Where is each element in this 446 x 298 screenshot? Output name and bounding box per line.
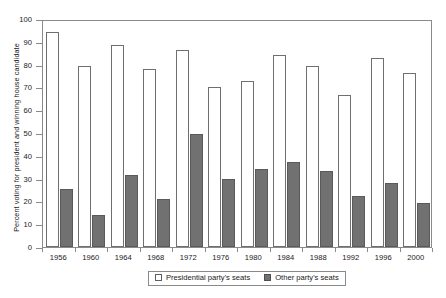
bar-1972-other — [190, 134, 203, 247]
bar-1964-other — [125, 175, 138, 247]
legend-swatch-presidential-icon — [155, 274, 162, 281]
bars-layer — [43, 21, 431, 247]
x-axis-tick — [335, 248, 336, 252]
legend-label-presidential: Presidential party's seats — [166, 274, 250, 282]
y-axis-tick-label: 10 — [0, 221, 32, 229]
bar-2000-other — [417, 203, 430, 247]
x-axis-tick — [205, 248, 206, 252]
bar-1980-presidential — [241, 81, 254, 247]
x-axis-tick — [367, 248, 368, 252]
x-axis-tick — [140, 248, 141, 252]
y-axis-tick-label: 20 — [0, 198, 32, 206]
bar-2000-presidential — [403, 73, 416, 247]
x-axis-tick — [270, 248, 271, 252]
bar-1992-presidential — [338, 95, 351, 247]
bar-1988-other — [320, 171, 333, 247]
bar-1984-presidential — [273, 55, 286, 247]
y-axis-tick-label: 60 — [0, 107, 32, 115]
x-axis-tick — [302, 248, 303, 252]
x-axis-tick — [75, 248, 76, 252]
bar-1992-other — [352, 196, 365, 247]
bar-1976-other — [222, 179, 235, 247]
y-axis-tick-label: 30 — [0, 176, 32, 184]
legend-label-other: Other party's seats — [275, 274, 339, 282]
y-axis-tick-label: 100 — [0, 16, 32, 24]
bar-1988-presidential — [306, 66, 319, 247]
y-axis-tick-label: 50 — [0, 130, 32, 138]
y-axis-tick-label: 0 — [0, 244, 32, 252]
bar-1956-other — [60, 189, 73, 247]
y-axis-tick-label: 70 — [0, 84, 32, 92]
x-axis-tick-label: 2000 — [396, 254, 436, 262]
bar-1968-other — [157, 199, 170, 247]
bar-1996-other — [385, 183, 398, 247]
bar-1980-other — [255, 169, 268, 247]
y-axis-tick-label: 40 — [0, 153, 32, 161]
bar-1996-presidential — [371, 58, 384, 247]
bar-1972-presidential — [176, 50, 189, 247]
bar-1976-presidential — [208, 87, 221, 247]
legend-swatch-other-icon — [264, 274, 271, 281]
legend-item-other: Other party's seats — [264, 274, 339, 282]
y-axis-tick-label: 90 — [0, 39, 32, 47]
legend-item-presidential: Presidential party's seats — [155, 274, 250, 282]
bar-1960-other — [92, 215, 105, 247]
plot-area — [42, 20, 432, 248]
bar-1984-other — [287, 162, 300, 248]
bar-1956-presidential — [46, 32, 59, 247]
bar-chart-figure: Percent voting for president and winning… — [0, 0, 446, 298]
bar-1960-presidential — [78, 66, 91, 247]
x-axis-tick — [432, 248, 433, 252]
x-axis-tick — [172, 248, 173, 252]
x-axis-tick — [400, 248, 401, 252]
y-axis-tick-label: 80 — [0, 62, 32, 70]
chart-legend: Presidential party's seats Other party's… — [148, 271, 346, 286]
bar-1964-presidential — [111, 45, 124, 247]
x-axis-tick — [42, 248, 43, 252]
x-axis-tick — [237, 248, 238, 252]
bar-1968-presidential — [143, 69, 156, 247]
x-axis-tick — [107, 248, 108, 252]
